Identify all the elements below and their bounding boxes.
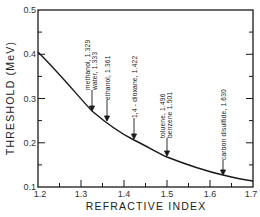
annotation-dioxane: 1,4 - dioxane, 1.422	[131, 56, 138, 118]
y-tick-0.2: 0.2	[23, 138, 36, 148]
y-axis-title: THRESHOLD (MeV)	[4, 41, 16, 155]
annotation-benzene: benzene 1.501	[166, 92, 173, 138]
y-tick-0.4: 0.4	[23, 49, 36, 59]
annotation-water: water, 1.333	[91, 52, 98, 91]
x-tick-1.4: 1.4	[118, 189, 131, 199]
annotation-ethanol: ethanol, 1.361	[104, 55, 111, 100]
x-axis-title: REFRACTIVE INDEX	[86, 200, 207, 212]
x-tick-labels: 1.2 1.3 1.4 1.5 1.6 1.7	[34, 189, 258, 199]
annotation-arrows	[90, 90, 226, 175]
threshold-vs-refractive-index-chart: 0.5 0.4 0.3 0.2 0.1 1.2 1.3 1.4 1.5 1.6 …	[0, 0, 260, 217]
annotation-carbon-disulfide: carbon disulfide, 1.630	[220, 89, 227, 160]
annotation-methanol: methanol, 1.329	[84, 40, 91, 90]
x-tick-1.6: 1.6	[204, 189, 217, 199]
x-tick-1.2: 1.2	[34, 189, 47, 199]
annotation-labels: methanol, 1.329 water, 1.333 ethanol, 1.…	[84, 40, 227, 160]
y-tick-0.5: 0.5	[23, 5, 36, 15]
x-tick-1.7: 1.7	[245, 189, 258, 199]
x-axis-ticks	[60, 180, 232, 187]
annotation-toluene: toluene, 1.496	[159, 93, 166, 138]
x-tick-1.3: 1.3	[75, 189, 88, 199]
y-tick-0.3: 0.3	[23, 94, 36, 104]
x-tick-1.5: 1.5	[161, 189, 174, 199]
y-tick-labels: 0.5 0.4 0.3 0.2 0.1	[23, 5, 36, 192]
